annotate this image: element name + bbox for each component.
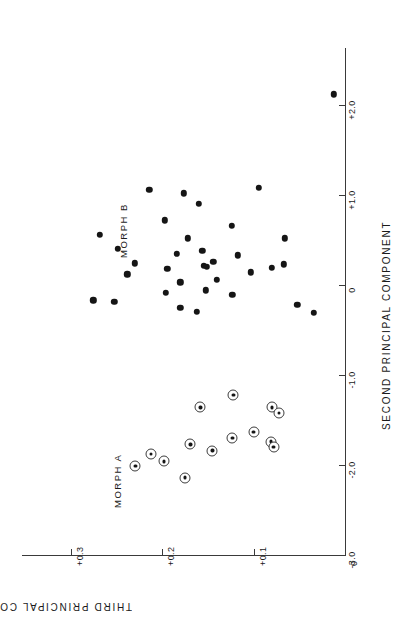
data-point-morph-b	[311, 310, 317, 316]
data-point-morph-b	[229, 292, 235, 298]
data-point-morph-b	[181, 190, 187, 196]
data-point-morph-a	[179, 472, 190, 483]
data-point-morph-a	[268, 442, 279, 453]
data-point-morph-a	[130, 460, 141, 471]
data-point-morph-b	[235, 252, 241, 258]
data-point-morph-b	[214, 276, 220, 282]
data-point-morph-b	[131, 260, 137, 266]
data-point-morph-b	[97, 231, 103, 237]
data-point-morph-b	[203, 287, 209, 293]
data-point-morph-a	[207, 445, 218, 456]
group-label-morph-a: MORPH A	[112, 454, 123, 508]
data-point-morph-a	[274, 407, 285, 418]
scatter-plot-figure: -3.0-2.0-1.00+1.0+2.0 0+0.1+0.2+0.3 SECO…	[0, 0, 397, 624]
data-point-morph-b	[124, 271, 130, 277]
data-point-morph-b	[194, 309, 200, 315]
data-point-morph-a	[185, 439, 196, 450]
data-point-morph-b	[294, 302, 300, 308]
data-point-morph-a	[158, 456, 169, 467]
plot-area	[0, 0, 397, 624]
group-label-morph-b: MORPH B	[118, 203, 129, 258]
data-point-morph-b	[204, 264, 210, 270]
data-point-morph-b	[269, 265, 275, 271]
data-point-morph-b	[281, 235, 287, 241]
data-point-morph-b	[228, 222, 234, 228]
data-point-morph-b	[210, 258, 216, 264]
data-point-morph-b	[162, 290, 168, 296]
data-point-morph-b	[111, 299, 117, 305]
data-point-morph-b	[146, 186, 152, 192]
data-point-morph-b	[90, 297, 96, 303]
data-point-morph-b	[199, 248, 205, 254]
data-point-morph-a	[195, 402, 206, 413]
data-point-morph-b	[331, 91, 337, 97]
data-point-morph-b	[162, 217, 168, 223]
data-point-morph-b	[164, 266, 170, 272]
data-point-morph-b	[184, 235, 190, 241]
data-point-morph-a	[227, 433, 238, 444]
data-point-morph-b	[195, 201, 201, 207]
data-point-morph-b	[280, 261, 286, 267]
data-point-morph-b	[177, 279, 183, 285]
data-point-morph-b	[177, 304, 183, 310]
data-point-morph-a	[146, 449, 157, 460]
data-point-morph-a	[228, 389, 239, 400]
data-point-morph-b	[248, 269, 254, 275]
data-point-morph-b	[173, 250, 179, 256]
data-point-morph-b	[256, 185, 262, 191]
data-point-morph-a	[248, 426, 259, 437]
